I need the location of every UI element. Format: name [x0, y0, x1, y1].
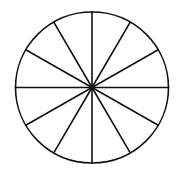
diagram-canvas [0, 0, 179, 172]
center-point [90, 85, 94, 89]
divided-circle-diagram [0, 0, 179, 172]
